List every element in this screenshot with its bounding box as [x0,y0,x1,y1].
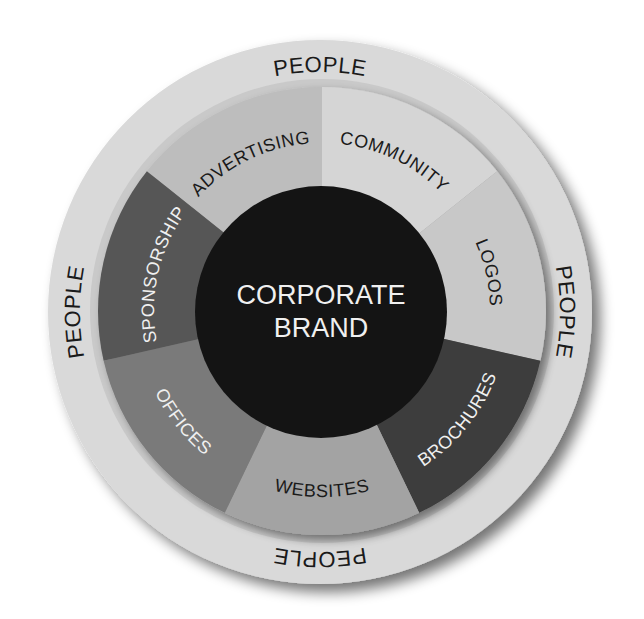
center-disk [195,186,447,438]
people-label-top: PEOPLE [272,52,369,81]
center-hub: CORPORATE BRAND [195,186,447,438]
people-label-left: PEOPLE [60,264,89,361]
corporate-brand-diagram: ADVERTISINGCOMMUNITYLOGOSBROCHURESWEBSIT… [0,0,644,619]
center-label-line1: CORPORATE [236,280,405,310]
people-label-right: PEOPLE [551,264,580,361]
people-label-bottom: PEOPLE [272,543,369,572]
center-label-line2: BRAND [274,313,369,343]
